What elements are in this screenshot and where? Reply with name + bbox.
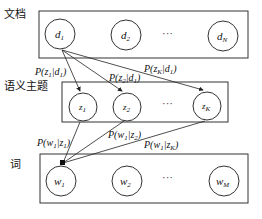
label-p-z1-d1: P(z1|d1) (34, 66, 67, 79)
plsa-diagram: 文档 语义主题 词 d1 d2 ··· dN z1 z2 ··· zK (0, 0, 262, 219)
ellipsis-topics: ··· (162, 97, 173, 109)
edge-z2-w1 (63, 121, 124, 163)
junction-point (60, 160, 65, 165)
node-dN: dN (208, 21, 238, 51)
node-z1: z1 (69, 93, 97, 121)
label-p-w1-z2: P(w1|z2) (107, 129, 142, 142)
label-p-z2-d1: P(z2|d1) (108, 72, 141, 85)
edge-d1-zK (62, 50, 203, 90)
ellipsis-words: ··· (162, 171, 173, 183)
node-w1: w1 (46, 166, 76, 196)
layer-label-documents: 文档 (4, 7, 26, 21)
layer-label-words: 词 (10, 158, 21, 171)
edge-zK-w1 (63, 121, 205, 163)
node-d1: d1 (45, 19, 75, 49)
label-p-w1-zK: P(w1|zK) (143, 139, 179, 152)
layer-label-topics: 语义主题 (4, 80, 48, 93)
node-wM: wM (209, 166, 239, 196)
node-zK: zK (193, 92, 221, 120)
node-z2: z2 (113, 93, 141, 121)
node-d2: d2 (111, 20, 141, 50)
ellipsis-documents: ··· (162, 27, 173, 39)
node-w2: w2 (112, 166, 142, 196)
label-p-w1-z1: P(w1|z1) (36, 137, 71, 150)
